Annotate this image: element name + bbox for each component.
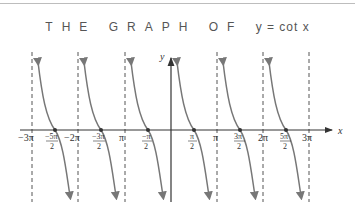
svg-text:2: 2 <box>97 142 101 151</box>
tick-m2pi: −2π <box>64 132 80 143</box>
tick-mpi: π <box>119 132 124 143</box>
cot-graph: y x −3π −2π π π 2π 3π −5π 2 −3π 2 −π 2 π <box>0 0 355 214</box>
tick-pi2-num: π <box>190 132 194 141</box>
tick-m3pi: −3π <box>18 132 34 143</box>
cot-branches <box>38 62 301 196</box>
svg-text:2: 2 <box>144 142 148 151</box>
svg-text:2: 2 <box>190 142 194 151</box>
tick-pi: π <box>213 132 218 143</box>
tick-2pi: 2π <box>258 132 268 143</box>
tick-5pi2-num: 5π <box>280 132 288 141</box>
svg-text:2: 2 <box>237 142 241 151</box>
svg-text:2: 2 <box>283 142 287 151</box>
y-axis-label: y <box>159 51 165 62</box>
tick-m5pi2-num: −5π <box>45 132 58 141</box>
tick-3pi: 3π <box>302 132 312 143</box>
x-axis-label: x <box>337 125 343 136</box>
svg-text:2: 2 <box>50 142 54 151</box>
tick-mpi2-num: −π <box>142 132 151 141</box>
tick-m3pi2-num: −3π <box>92 132 105 141</box>
tick-3pi2-num: 3π <box>234 132 242 141</box>
